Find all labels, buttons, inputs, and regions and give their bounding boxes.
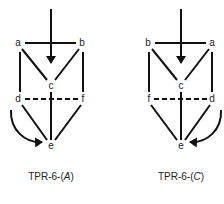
node-label-e: e	[178, 141, 184, 151]
caption-tpr-6-a: TPR-6-(A)	[28, 171, 74, 182]
edge-a-c	[185, 49, 209, 80]
node-label-c: c	[179, 81, 184, 91]
edge-f-e	[151, 105, 177, 140]
caption-suffix: )	[201, 171, 204, 182]
node-label-d: d	[15, 94, 21, 104]
node-label-c: c	[49, 81, 54, 91]
edge-b-c	[55, 49, 79, 80]
node-label-e: e	[48, 141, 54, 151]
node-label-b: b	[79, 38, 85, 48]
caption-tpr-6-c: TPR-6-(C)	[158, 171, 204, 182]
node-label-a: a	[209, 38, 215, 48]
edge-b-c	[152, 49, 177, 80]
edge-d-e	[22, 105, 47, 140]
caption-prefix: TPR-6-(	[158, 171, 194, 182]
caption-prefix: TPR-6-(	[28, 171, 64, 182]
caption-variant: C	[193, 171, 200, 182]
node-label-f: f	[148, 94, 151, 104]
node-label-b: b	[145, 38, 151, 48]
edge-a-c	[22, 49, 47, 80]
node-label-a: a	[15, 38, 21, 48]
diagram-tpr-6-c	[149, 9, 221, 142]
node-label-d: d	[209, 94, 215, 104]
node-label-f: f	[82, 94, 85, 104]
edge-d-e	[185, 105, 210, 140]
edge-f-e	[55, 105, 81, 140]
diagram-tpr-6-a	[11, 9, 83, 142]
caption-suffix: )	[70, 171, 73, 182]
